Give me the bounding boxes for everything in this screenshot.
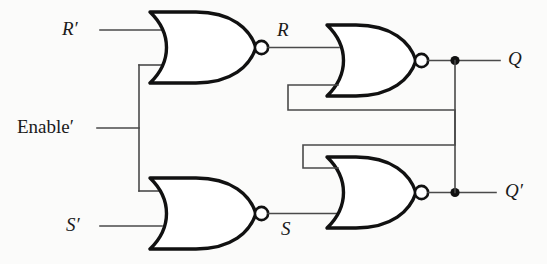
- label-input-s-bar: S′: [66, 215, 80, 234]
- circuit-canvas: [0, 0, 547, 264]
- label-output-q-bar: Q′: [505, 181, 523, 200]
- inversion-bubble-top-right: [415, 54, 428, 67]
- label-output-q: Q: [508, 49, 522, 68]
- label-internal-s: S: [281, 219, 291, 238]
- inversion-bubble-bottom-right: [415, 186, 428, 199]
- inversion-bubble-top-left: [255, 41, 268, 54]
- label-internal-r: R: [277, 20, 289, 39]
- logic-circuit-diagram: R′ Enable′ S′ R S Q Q′: [0, 0, 547, 264]
- nor-gate-top-left: [150, 12, 256, 83]
- nor-gate-bottom-right: [327, 157, 416, 228]
- label-input-enable-bar: Enable′: [17, 117, 74, 136]
- label-input-r-bar: R′: [62, 19, 78, 38]
- nor-gate-bottom-left: [150, 178, 256, 249]
- inversion-bubble-bottom-left: [255, 207, 268, 220]
- nor-gate-top-right: [327, 25, 416, 96]
